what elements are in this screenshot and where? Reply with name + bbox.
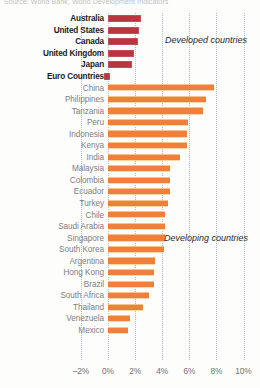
bar-tanzania [108, 107, 203, 114]
x-tick-label: 6% [183, 366, 195, 376]
bar-row: South Korea [0, 244, 260, 256]
bar-kenya [108, 142, 187, 149]
bar-argentina [108, 257, 155, 264]
bar-row: Malaysia [0, 163, 260, 175]
bar-track [0, 94, 260, 106]
bar-track [0, 267, 260, 279]
bar-united-states [108, 27, 139, 34]
plot-area: AustraliaUnited StatesCanadaUnited Kingd… [0, 13, 260, 360]
bar-row: Peru [0, 117, 260, 129]
bar-venezuela [108, 315, 130, 322]
bar-canada [108, 38, 138, 45]
bar-track [0, 279, 260, 291]
bar-track [0, 290, 260, 302]
bar-row: Turkey [0, 198, 260, 210]
bar-peru [108, 119, 188, 126]
bar-track [0, 128, 260, 140]
x-tick-label: 8% [210, 366, 222, 376]
bar-indonesia [108, 130, 187, 137]
bar-track [0, 140, 260, 152]
bar-saudi-arabia [108, 223, 165, 230]
source-caption: Source: World Bank, World Development In… [4, 0, 168, 5]
bar-south-africa [108, 292, 149, 299]
bar-track [0, 209, 260, 221]
x-tick-label: 2% [129, 366, 141, 376]
bar-ecuador [108, 188, 170, 195]
annotation-developing: Developing countries [160, 233, 252, 244]
bar-row: Saudi Arabia [0, 221, 260, 233]
bar-row: Indonesia [0, 128, 260, 140]
bar-row: Brazil [0, 279, 260, 291]
bar-track [0, 244, 260, 256]
bar-row: United Kingdom [0, 48, 260, 60]
bar-south-korea [108, 246, 164, 253]
bar-row: Argentina [0, 255, 260, 267]
bar-united-kingdom [108, 50, 134, 57]
bar-row: Thailand [0, 302, 260, 314]
bar-row: Venezuela [0, 313, 260, 325]
bar-track [0, 117, 260, 129]
bar-track [0, 163, 260, 175]
bar-track [0, 175, 260, 187]
bar-track [0, 302, 260, 314]
x-axis: –2%0%2%4%6%8%10% [0, 366, 260, 380]
bar-row: Colombia [0, 175, 260, 187]
bar-track [0, 255, 260, 267]
bar-track [0, 186, 260, 198]
bar-row: Hong Kong [0, 267, 260, 279]
x-tick-label: 4% [156, 366, 168, 376]
bar-track [0, 59, 260, 71]
bar-track [0, 325, 260, 337]
bar-australia [108, 15, 141, 22]
bar-row: India [0, 152, 260, 164]
bar-thailand [108, 304, 143, 311]
bar-track [0, 82, 260, 94]
bar-malaysia [108, 165, 170, 172]
bar-track [0, 198, 260, 210]
bar-row: Tanzania [0, 105, 260, 117]
bar-row: Ecuador [0, 186, 260, 198]
bar-colombia [108, 177, 170, 184]
bar-brazil [108, 281, 154, 288]
x-tick-label: 10% [235, 366, 251, 376]
bar-row: Mexico [0, 325, 260, 337]
bar-china [108, 84, 214, 91]
bar-row: China [0, 82, 260, 94]
bar-mexico [108, 327, 128, 334]
bar-japan [108, 61, 132, 68]
bar-euro-countries [104, 73, 110, 80]
bar-singapore [108, 234, 165, 241]
bar-track [0, 13, 260, 25]
x-tick-label: –2% [73, 366, 89, 376]
bar-row: Philippines [0, 94, 260, 106]
bar-track [0, 71, 260, 83]
x-tick-label: 0% [102, 366, 114, 376]
bar-chile [108, 211, 165, 218]
bar-rows: AustraliaUnited StatesCanadaUnited Kingd… [0, 13, 260, 336]
bar-track [0, 221, 260, 233]
bar-track [0, 48, 260, 60]
bar-india [108, 154, 180, 161]
bar-row: Australia [0, 13, 260, 25]
bar-philippines [108, 96, 206, 103]
bar-row: South Africa [0, 290, 260, 302]
chart-root: Source: World Bank, World Development In… [0, 0, 260, 388]
bar-row: Chile [0, 209, 260, 221]
bar-hong-kong [108, 269, 154, 276]
bar-row: Japan [0, 59, 260, 71]
bar-track [0, 313, 260, 325]
bar-turkey [108, 200, 168, 207]
bar-row: Kenya [0, 140, 260, 152]
bar-track [0, 152, 260, 164]
bar-row: Euro Countries [0, 71, 260, 83]
bar-track [0, 105, 260, 117]
annotation-developed: Developed countries [160, 35, 252, 46]
